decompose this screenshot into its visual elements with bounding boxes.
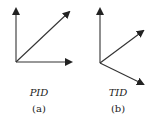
arrow-b-upper-right: [100, 31, 143, 63]
arrow-a-diagonal: [16, 12, 69, 62]
panel-b-title: TID: [98, 88, 138, 98]
panel-a-caption: (a): [19, 104, 59, 114]
arrow-group: [16, 9, 143, 84]
arrow-b-lower-right: [100, 63, 143, 84]
panel-b-caption: (b): [98, 104, 138, 114]
panel-a-title: PID: [19, 88, 59, 98]
